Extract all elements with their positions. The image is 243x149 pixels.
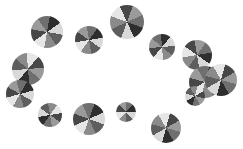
- scene-canvas: [0, 0, 243, 149]
- pie-wheel-shape: [110, 5, 144, 39]
- pie-wheel-shape: [185, 86, 205, 106]
- pie-wheel-shape: [75, 26, 103, 54]
- pie-wheel-shape: [38, 103, 62, 127]
- pie-wheel-shape: [205, 64, 237, 96]
- pie-wheel-shape: [149, 34, 175, 60]
- pie-wheel-shape: [151, 113, 181, 143]
- pie-wheel-shape: [73, 103, 105, 135]
- pie-wheel-shape: [31, 16, 63, 48]
- pie-wheel-shape: [116, 102, 136, 122]
- pie-wheel-shape: [6, 80, 34, 108]
